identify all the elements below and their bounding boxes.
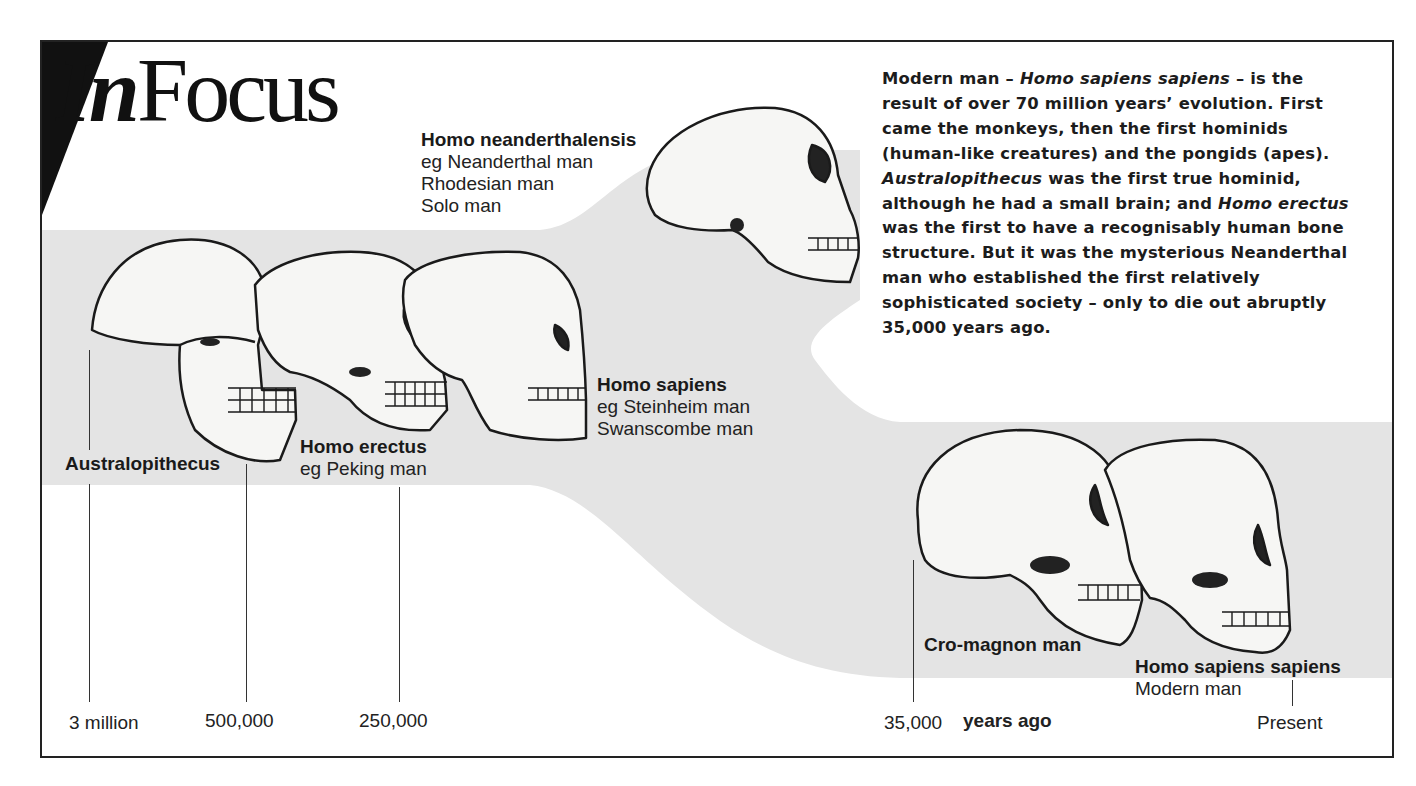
label-homo-neanderthalensis: Homo neanderthalensis eg Neanderthal man… xyxy=(421,129,636,217)
label-homo-sapiens-sapiens: Homo sapiens sapiens Modern man xyxy=(1135,656,1341,700)
label-homo-erectus: Homo erectus eg Peking man xyxy=(300,436,427,480)
timeline-label-present: Present xyxy=(1257,712,1322,734)
label-australopithecus: Australopithecus xyxy=(65,453,220,475)
timeline-unit-label: years ago xyxy=(963,710,1052,732)
label-homo-sapiens: Homo sapiens eg Steinheim man Swanscombe… xyxy=(597,374,753,440)
timeline-label-35000: 35,000 xyxy=(884,712,942,734)
tick-present xyxy=(1292,680,1293,706)
label-cro-magnon: Cro-magnon man xyxy=(924,634,1081,656)
tick-3-million-upper xyxy=(89,350,90,450)
timeline-label-500000: 500,000 xyxy=(205,710,274,732)
logo-in: In xyxy=(56,39,137,141)
tick-500000 xyxy=(246,464,247,702)
tick-35000 xyxy=(913,560,914,702)
tick-250000 xyxy=(399,487,400,702)
infocus-logo: InFocus xyxy=(56,44,337,136)
tick-3-million xyxy=(89,484,90,702)
intro-paragraph: Modern man – Homo sapiens sapiens – is t… xyxy=(882,67,1382,341)
logo-focus: Focus xyxy=(137,39,337,141)
timeline-label-250000: 250,000 xyxy=(359,710,428,732)
timeline-label-3-million: 3 million xyxy=(69,712,139,734)
